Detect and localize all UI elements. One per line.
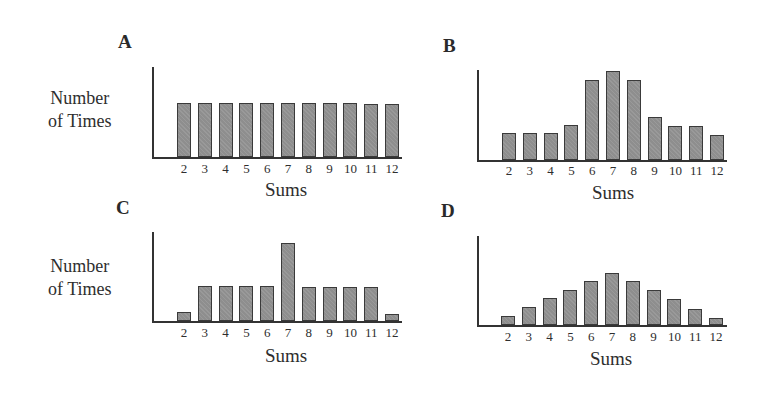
panel-b-tick-label: 2 [499, 164, 519, 177]
panel-b-tick-label: 7 [603, 164, 623, 177]
panel-a-x-axis-line [152, 157, 402, 159]
panel-a-bar-3 [198, 103, 212, 157]
panel-a-tick-label: 2 [174, 162, 194, 175]
panel-c-bar-6 [260, 286, 274, 321]
panel-c-tick-label: 6 [257, 326, 277, 339]
panel-b-tick-label: 4 [541, 164, 561, 177]
panel-c-tick-label: 7 [278, 326, 298, 339]
panel-d-bar-9 [647, 290, 661, 325]
panel-b-tick-label: 10 [665, 164, 685, 177]
panel-c-bar-7 [281, 243, 295, 321]
panel-a-tick-label: 8 [299, 162, 319, 175]
panel-b-bar-6 [585, 80, 599, 160]
panel-b-tick-label: 6 [582, 164, 602, 177]
panel-d-bar-4 [543, 298, 557, 325]
panel-a-tick-label: 7 [278, 162, 298, 175]
panel-c-bar-12 [385, 314, 399, 321]
panel-a-y-axis-line [152, 67, 154, 159]
panel-d-bar-11 [688, 309, 702, 325]
panel-a-bar-11 [364, 104, 378, 157]
panel-d-bar-10 [667, 299, 681, 325]
panel-d-bar-6 [584, 281, 598, 325]
panel-d-tick-label: 9 [644, 330, 664, 343]
panel-b-tick-label: 11 [686, 164, 706, 177]
panel-d-bar-12 [709, 318, 723, 325]
panel-d-plot-area [477, 236, 727, 327]
panel-c-y-axis-label: Numberof Times [48, 255, 112, 301]
panel-c-x-axis-label: Sums [265, 346, 307, 365]
panel-d-tick-label: 11 [685, 330, 705, 343]
panel-c-tick-label: 11 [361, 326, 381, 339]
panel-d-bar-2 [501, 316, 515, 325]
panel-b-bar-10 [668, 126, 682, 160]
panel-d-tick-label: 10 [664, 330, 684, 343]
panel-b-tick-label: 5 [561, 164, 581, 177]
y-axis-label-line-1: Number [48, 255, 112, 278]
panel-b-bar-11 [689, 126, 703, 160]
panel-a-tick-label: 6 [257, 162, 277, 175]
panel-a-tick-label: 11 [361, 162, 381, 175]
panel-d-tick-label: 8 [623, 330, 643, 343]
panel-b-bar-4 [544, 133, 558, 160]
panel-d-tick-label: 4 [540, 330, 560, 343]
y-axis-label-line-2: of Times [48, 278, 112, 301]
panel-d-title: D [441, 201, 455, 220]
panel-c-tick-label: 3 [195, 326, 215, 339]
panel-b-bar-7 [606, 71, 620, 160]
panel-a-plot-area [152, 67, 402, 159]
panel-b-y-axis-line [477, 70, 479, 162]
panel-c-bar-5 [239, 286, 253, 321]
panel-c-x-axis-line [152, 321, 402, 323]
panel-c-bar-11 [364, 287, 378, 321]
panel-d-bar-3 [522, 307, 536, 325]
panel-c-title: C [116, 198, 130, 217]
panel-d-tick-label: 3 [519, 330, 539, 343]
panel-c-y-axis-line [152, 232, 154, 323]
panel-c-bar-9 [323, 287, 337, 321]
panel-b-tick-label: 12 [707, 164, 727, 177]
panel-a-tick-label: 5 [236, 162, 256, 175]
panel-c-tick-label: 4 [216, 326, 236, 339]
panel-a-tick-label: 3 [195, 162, 215, 175]
panel-c-tick-label: 8 [299, 326, 319, 339]
panel-a-tick-label: 9 [320, 162, 340, 175]
panel-d-x-axis-line [477, 325, 727, 327]
panel-d-tick-label: 2 [498, 330, 518, 343]
panel-d-y-axis-line [477, 236, 479, 327]
panel-a-bar-9 [323, 103, 337, 157]
y-axis-label-line-2: of Times [48, 110, 112, 133]
panel-c-tick-label: 9 [320, 326, 340, 339]
panel-a-bar-6 [260, 103, 274, 157]
panel-a-bar-4 [219, 103, 233, 157]
panel-c-tick-label: 10 [340, 326, 360, 339]
panel-b-bar-9 [648, 117, 662, 160]
panel-d-tick-label: 5 [560, 330, 580, 343]
panel-b-bar-5 [564, 125, 578, 160]
panel-b-tick-label: 3 [520, 164, 540, 177]
panel-c-bar-4 [219, 286, 233, 321]
panel-d-tick-label: 12 [706, 330, 726, 343]
panel-c-tick-label: 12 [382, 326, 402, 339]
panel-b-tick-label: 8 [624, 164, 644, 177]
panel-a-bar-5 [239, 103, 253, 157]
panel-a-bar-10 [343, 103, 357, 157]
panel-a-tick-label: 4 [216, 162, 236, 175]
panel-c-plot-area [152, 232, 402, 323]
panel-a-tick-label: 10 [340, 162, 360, 175]
panel-c-bar-3 [198, 286, 212, 321]
panel-b-bar-8 [627, 80, 641, 160]
panel-d-tick-label: 6 [581, 330, 601, 343]
panel-b-bar-12 [710, 135, 724, 160]
panel-b-bar-3 [523, 133, 537, 160]
panel-a-bar-2 [177, 103, 191, 157]
panel-d-bar-8 [626, 281, 640, 325]
panel-d-x-axis-label: Sums [590, 349, 632, 368]
panel-c-bar-2 [177, 312, 191, 321]
panel-a-y-axis-label: Numberof Times [48, 87, 112, 133]
panel-c-bar-8 [302, 287, 316, 321]
panel-b-tick-label: 9 [645, 164, 665, 177]
panel-b-plot-area [477, 70, 727, 162]
y-axis-label-line-1: Number [48, 87, 112, 110]
panel-a-bar-7 [281, 103, 295, 157]
panel-b-x-axis-label: Sums [592, 183, 634, 202]
